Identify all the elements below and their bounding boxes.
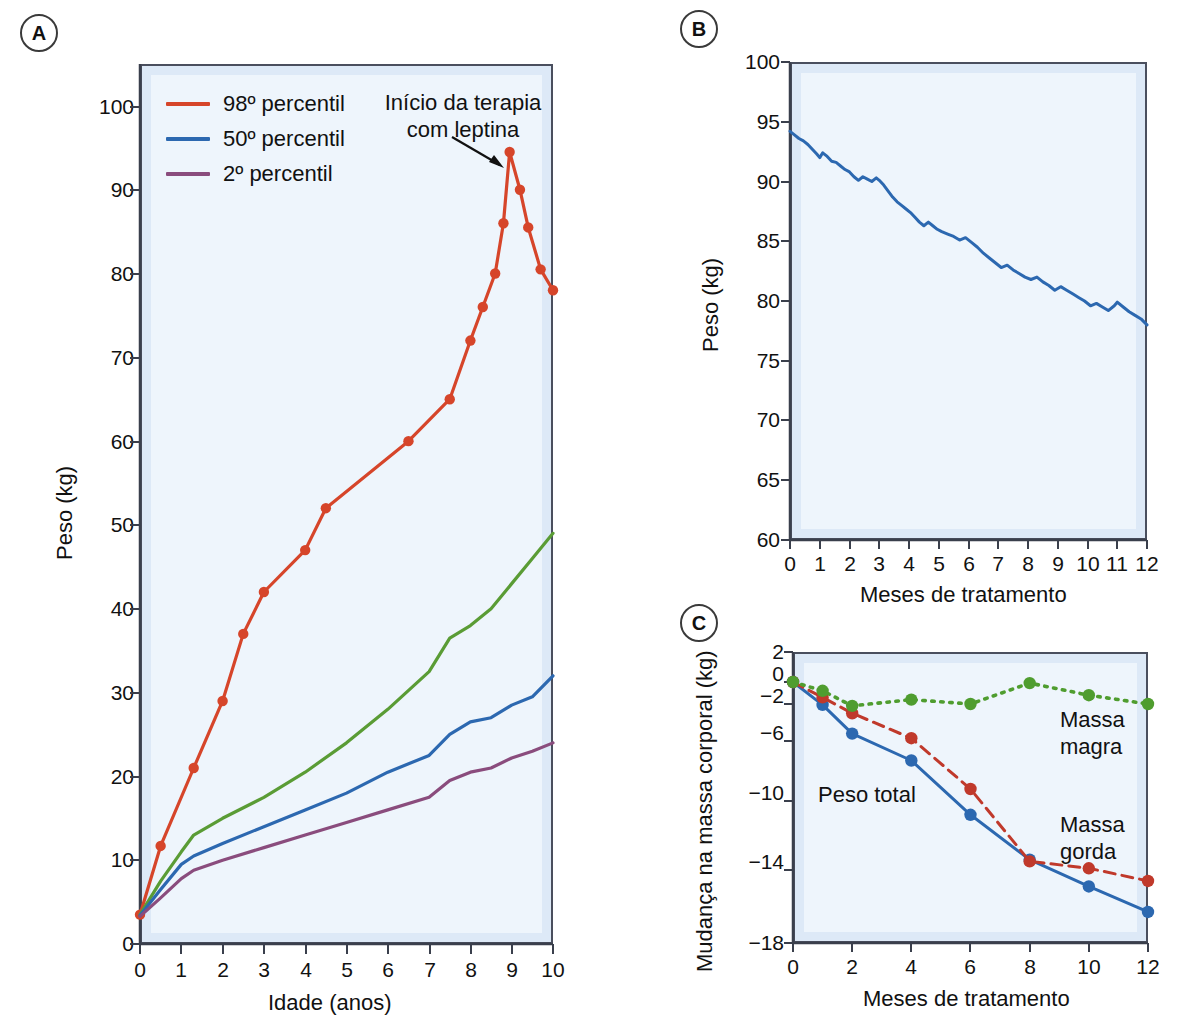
panel-a-xtick-9: 9 — [506, 958, 518, 982]
legend-label-50th: 50º percentil — [223, 126, 345, 152]
panel-a-ytick-70: 70 — [90, 346, 134, 370]
panel-a-xtick-10: 10 — [541, 958, 564, 982]
panel-c-xtick-8: 8 — [1024, 955, 1036, 979]
panel-a-ytick-60: 60 — [90, 430, 134, 454]
panel-b-plot-area — [790, 62, 1147, 540]
panel-b-xtick-8: 8 — [1022, 552, 1034, 576]
panel-a-ytick-90: 90 — [90, 178, 134, 202]
panel-a-xtick-2: 2 — [217, 958, 229, 982]
panel-a-ytick-50: 50 — [90, 513, 134, 537]
panel-c-xtick-0: 0 — [787, 955, 799, 979]
legend-item-2nd: 2º percentil — [166, 162, 345, 186]
panel-a-xtick-3: 3 — [258, 958, 270, 982]
panel-b-xtick-3: 3 — [873, 552, 885, 576]
legend-swatch-2nd — [166, 172, 210, 176]
panel-a-xtick-5: 5 — [341, 958, 353, 982]
panel-b-ytick-95: 95 — [726, 110, 780, 134]
legend-label-98th: 98º percentil — [223, 91, 345, 117]
panel-c-label-lean: Massa magra — [1060, 707, 1125, 761]
panel-b-xtick-5: 5 — [933, 552, 945, 576]
panel-a-ytick-30: 30 — [90, 681, 134, 705]
panel-c-xtick-2: 2 — [846, 955, 858, 979]
panel-a-ytick-40: 40 — [90, 597, 134, 621]
panel-b-ytick-75: 75 — [726, 349, 780, 373]
panel-b-ytick-60: 60 — [726, 528, 780, 552]
panel-c-xtick-4: 4 — [905, 955, 917, 979]
panel-b-xtick-11: 11 — [1106, 552, 1128, 576]
panel-c-ytick-m14: −14 — [724, 850, 784, 874]
panel-c-label-total: Peso total — [818, 782, 916, 809]
panel-c-ytick-m18: −18 — [724, 931, 784, 955]
panel-b: B 60 65 70 75 80 85 90 95 100 0 1 2 3 4 … — [620, 0, 1181, 620]
legend-label-2nd: 2º percentil — [223, 161, 333, 187]
panel-c-ytick-2: 2 — [724, 640, 784, 664]
figure-root: A 0 10 20 30 40 50 60 70 80 90 100 0 1 2… — [0, 0, 1181, 1024]
panel-b-ytick-100: 100 — [720, 50, 780, 74]
panel-c-xtick-10: 10 — [1077, 955, 1100, 979]
panel-c-ytick-m2: −2 — [724, 684, 784, 708]
legend-item-98th: 98º percentil — [166, 92, 345, 116]
panel-c-xaxis-title: Meses de tratamento — [863, 986, 1070, 1012]
panel-a-ytick-0: 0 — [90, 932, 134, 956]
panel-a-xtick-6: 6 — [382, 958, 394, 982]
panel-b-xtick-12: 12 — [1135, 552, 1158, 576]
panel-c-xtick-6: 6 — [964, 955, 976, 979]
panel-c: C −18 −14 −10 −6 −2 0 2 0 2 4 6 8 10 12 … — [620, 590, 1181, 1024]
panel-a-ytick-20: 20 — [90, 765, 134, 789]
legend-swatch-98th — [166, 102, 210, 106]
panel-c-ytick-0: 0 — [724, 662, 784, 686]
panel-b-xtick-9: 9 — [1052, 552, 1064, 576]
panel-b-xtick-2: 2 — [844, 552, 856, 576]
panel-b-plot-tint — [801, 73, 1136, 529]
panel-a-legend: 98º percentil 50º percentil 2º percentil — [166, 92, 345, 197]
panel-c-xtick-12: 12 — [1136, 955, 1159, 979]
panel-a: A 0 10 20 30 40 50 60 70 80 90 100 0 1 2… — [0, 0, 620, 1024]
panel-c-label-fat: Massa gorda — [1060, 812, 1125, 866]
panel-c-ytick-m6: −6 — [724, 721, 784, 745]
panel-b-xtick-6: 6 — [963, 552, 975, 576]
panel-b-ytick-90: 90 — [726, 170, 780, 194]
panel-c-ytick-m10: −10 — [724, 781, 784, 805]
panel-b-xtick-7: 7 — [992, 552, 1004, 576]
panel-c-yaxis-title: Mudança na massa corporal (kg) — [692, 650, 718, 972]
panel-a-yaxis-title: Peso (kg) — [52, 466, 78, 560]
panel-c-badge: C — [680, 604, 718, 642]
panel-b-ytick-65: 65 — [726, 468, 780, 492]
panel-b-ytick-80: 80 — [726, 289, 780, 313]
panel-b-ytick-85: 85 — [726, 229, 780, 253]
panel-a-xtick-1: 1 — [175, 958, 187, 982]
panel-b-yaxis-title: Peso (kg) — [698, 258, 724, 352]
panel-b-ytick-70: 70 — [726, 408, 780, 432]
panel-a-xtick-0: 0 — [134, 958, 146, 982]
panel-a-ytick-10: 10 — [90, 848, 134, 872]
panel-a-xtick-7: 7 — [424, 958, 436, 982]
legend-swatch-50th — [166, 137, 210, 141]
panel-a-therapy-annotation: Início da terapia com leptina — [368, 90, 558, 144]
panel-a-xtick-4: 4 — [300, 958, 312, 982]
panel-a-badge: A — [20, 14, 58, 52]
panel-b-xtick-4: 4 — [903, 552, 915, 576]
legend-item-50th: 50º percentil — [166, 127, 345, 151]
panel-a-xtick-8: 8 — [465, 958, 477, 982]
panel-b-xtick-0: 0 — [784, 552, 796, 576]
panel-a-ytick-80: 80 — [90, 262, 134, 286]
panel-a-xaxis-title: Idade (anos) — [268, 990, 392, 1016]
panel-a-plot-tint — [151, 75, 542, 933]
panel-a-ytick-100: 100 — [78, 95, 134, 119]
panel-b-badge: B — [680, 10, 718, 48]
panel-b-xtick-10: 10 — [1076, 552, 1099, 576]
panel-b-xtick-1: 1 — [814, 552, 826, 576]
